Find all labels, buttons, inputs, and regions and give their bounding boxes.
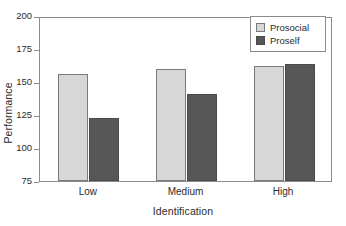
bar-high-prosocial [254,66,284,181]
y-axis-tick: 125 [0,116,39,117]
y-axis-title: Performance [0,0,16,226]
bar-high-proself [285,64,315,181]
y-tick-label: 75 [21,175,32,186]
y-axis-tick: 150 [0,83,39,84]
legend-item: Prosocial [256,21,320,34]
bar-low-proself [89,118,119,181]
y-axis-tick: 200 [0,17,39,18]
x-tick-label: Medium [168,186,204,197]
bar-chart-figure: Performance Identification 7510012515017… [0,0,346,226]
y-axis-tick: 175 [0,50,39,51]
y-tick-label: 200 [16,10,32,21]
y-tick-label: 175 [16,43,32,54]
y-tick-label: 125 [16,109,32,120]
y-tick-label: 150 [16,76,32,87]
bar-medium-prosocial [156,69,186,181]
legend-swatch-prosocial-icon [256,23,265,32]
bar-medium-proself [187,94,217,181]
legend-item: Proself [256,34,320,47]
y-tick-mark [34,182,39,183]
x-axis-title: Identification [34,205,332,217]
legend-label-prosocial: Prosocial [270,22,309,33]
bar-low-prosocial [58,74,88,181]
y-tick-label: 100 [16,142,32,153]
x-tick-label: High [273,186,294,197]
x-tick-label: Low [79,186,97,197]
legend-label-proself: Proself [270,35,300,46]
y-axis-tick: 75 [0,182,39,183]
legend-swatch-proself-icon [256,36,265,45]
y-axis-tick: 100 [0,149,39,150]
chart-legend: Prosocial Proself [250,16,326,52]
